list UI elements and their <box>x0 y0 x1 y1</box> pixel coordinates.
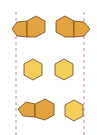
polygon-diagram <box>0 0 97 135</box>
pentagon <box>12 21 27 37</box>
hexagon <box>27 16 45 37</box>
row1-right-fused-shape <box>56 16 90 37</box>
row3-right-hexagon <box>65 100 83 121</box>
hexagon <box>35 99 54 120</box>
hexagon <box>56 16 74 37</box>
row2-right-hexagon <box>55 59 73 80</box>
row3-left-fused-shape <box>18 99 54 120</box>
pentagon <box>18 102 35 117</box>
pentagon <box>74 21 90 37</box>
row2-left-hexagon <box>24 59 42 80</box>
row1-left-fused-shape <box>12 16 45 37</box>
